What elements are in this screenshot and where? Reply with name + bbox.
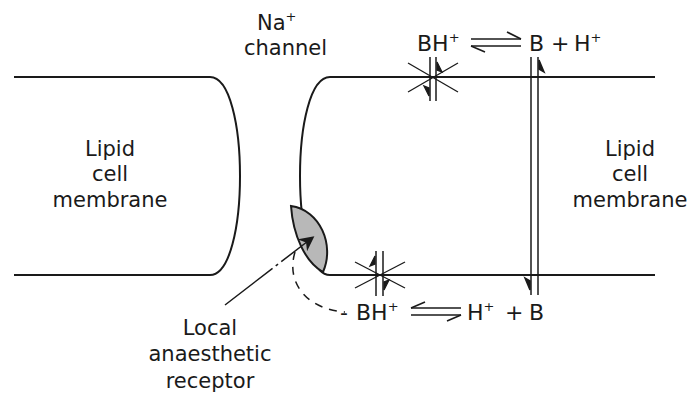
svg-text:Local: Local — [183, 316, 237, 340]
svg-text:B: B — [529, 31, 544, 56]
channel-label: channel — [244, 36, 327, 60]
top-blocked-crossing-icon — [408, 57, 458, 101]
svg-text:receptor: receptor — [166, 369, 255, 393]
svg-text:anaesthetic: anaesthetic — [149, 342, 272, 366]
bottom-equilibrium-arrows-icon — [411, 302, 461, 321]
local-anaesthetic-receptor-shape — [291, 206, 327, 272]
svg-text:membrane: membrane — [573, 188, 688, 212]
svg-text:BH+: BH+ — [356, 299, 399, 325]
top-equilibrium-arrows-icon — [471, 32, 521, 52]
svg-text:H+: H+ — [574, 30, 601, 56]
svg-text:Lipid: Lipid — [605, 137, 655, 161]
svg-text:Lipid: Lipid — [85, 137, 135, 161]
bottom-equilibrium: - BH+ H+ + B — [340, 299, 544, 325]
right-membrane-outline — [300, 77, 655, 275]
svg-text:B: B — [529, 300, 544, 325]
bottom-blocked-crossing-icon — [355, 251, 405, 296]
svg-text:cell: cell — [612, 162, 648, 186]
svg-text:H+: H+ — [467, 299, 494, 325]
base-diffusion-lines — [525, 57, 544, 295]
top-equilibrium: BH+ B + H+ — [417, 30, 601, 56]
svg-text:membrane: membrane — [53, 188, 168, 212]
svg-text:cell: cell — [92, 162, 128, 186]
na-label: Na+ — [257, 9, 296, 35]
na-channel-diagram: Na+ channel Lipid cell membrane Lipid ce… — [0, 0, 694, 406]
receptor-label: Local anaesthetic receptor — [149, 316, 272, 393]
svg-text:+: + — [505, 300, 523, 325]
svg-text:-: - — [340, 300, 348, 325]
receptor-pointer-arrow — [225, 238, 312, 305]
right-membrane-label: Lipid cell membrane — [573, 137, 688, 212]
left-membrane-label: Lipid cell membrane — [53, 137, 168, 212]
svg-text:BH+: BH+ — [417, 30, 460, 56]
svg-text:+: + — [551, 31, 569, 56]
